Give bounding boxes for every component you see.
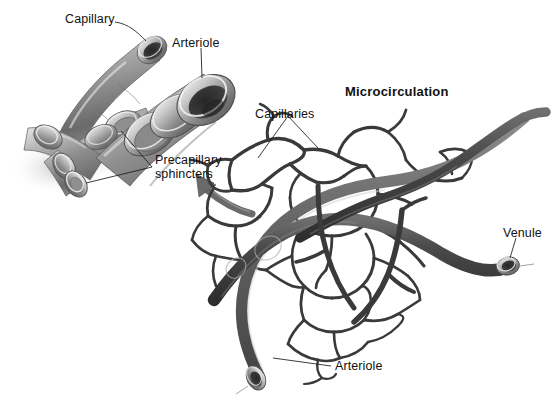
label-venule: Venule	[503, 226, 542, 240]
leader-capillary	[115, 22, 146, 41]
leader-arteriole	[201, 48, 202, 78]
figure-title: Microcirculation	[345, 85, 449, 100]
label-capillaries: Capillaries	[255, 107, 314, 121]
label-precapillary-sphincters-line1: Precapillary	[155, 153, 222, 167]
network-arteriole	[236, 118, 524, 394]
microcirculation-figure: Capillary Arteriole Precapillary sphinct…	[0, 0, 560, 401]
label-arteriole-network: Arteriole	[335, 359, 382, 373]
label-capillary: Capillary	[65, 12, 115, 26]
leader-venule	[510, 238, 516, 258]
illustration-canvas	[0, 0, 560, 401]
label-arteriole-detail: Arteriole	[172, 36, 219, 50]
label-precapillary-sphincters: Precapillary sphincters	[155, 153, 239, 181]
leader-arteriole-network	[273, 358, 331, 366]
label-precapillary-sphincters-line2: sphincters	[155, 167, 213, 181]
